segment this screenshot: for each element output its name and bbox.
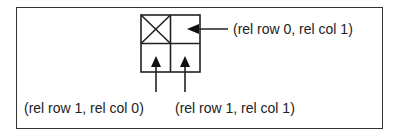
arrow-left-icon (187, 24, 199, 34)
label-rel-row0-col1: (rel row 0, rel col 1) (233, 22, 353, 36)
arrow-up-icon (151, 56, 161, 67)
arrow-up-icon (180, 56, 190, 67)
label-rel-row1-col1: (rel row 1, rel col 1) (175, 101, 295, 115)
label-rel-row1-col0: (rel row 1, rel col 0) (24, 101, 144, 115)
